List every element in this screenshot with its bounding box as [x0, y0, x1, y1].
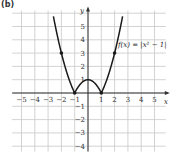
- y-tick-label: −3: [75, 129, 85, 137]
- x-tick-label: −2: [56, 96, 66, 104]
- x-tick-label: −3: [43, 96, 53, 104]
- y-tick-label: −4: [75, 143, 86, 151]
- y-tick-label: 5: [81, 23, 85, 31]
- x-tick-label: 1: [99, 96, 103, 104]
- y-tick-label: −2: [75, 116, 85, 124]
- x-tick-label: −5: [16, 96, 26, 104]
- y-tick-label: −1: [75, 103, 85, 111]
- marked-point: [73, 91, 77, 95]
- x-tick-label: −4: [30, 96, 41, 104]
- marked-point: [60, 51, 64, 55]
- marked-point: [113, 51, 117, 55]
- part-label: (b): [1, 0, 14, 9]
- x-tick-label: 5: [152, 96, 156, 104]
- function-graph: (b) −5−4−3−2−112345−4−3−2−112345 f(x) = …: [0, 0, 172, 156]
- x-axis-label: x: [164, 98, 168, 106]
- function-label: f(x) = |x² − 1|: [117, 41, 167, 49]
- grid: [12, 11, 166, 152]
- marked-point: [100, 91, 104, 95]
- y-tick-label: 4: [81, 36, 86, 44]
- x-tick-label: 4: [139, 96, 144, 104]
- axes: [12, 7, 170, 152]
- x-tick-label: 2: [112, 96, 116, 104]
- y-axis-label: y: [79, 7, 85, 15]
- y-tick-label: 2: [81, 63, 85, 71]
- x-tick-label: 3: [126, 96, 130, 104]
- y-tick-label: 3: [81, 50, 85, 58]
